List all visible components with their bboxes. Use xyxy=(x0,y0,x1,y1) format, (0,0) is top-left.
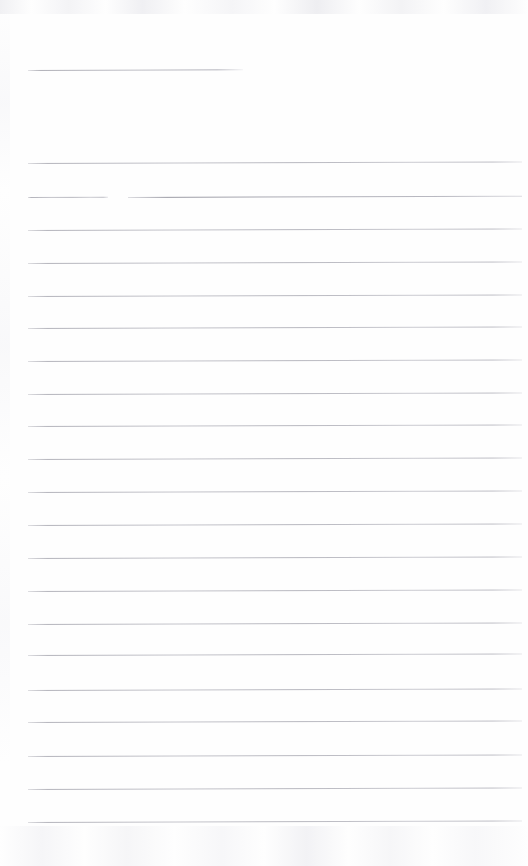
ruled-line xyxy=(28,392,522,395)
ruled-line xyxy=(28,161,522,164)
ruled-line xyxy=(28,197,108,199)
scan-grain-top xyxy=(0,0,528,14)
ruled-line xyxy=(28,688,522,691)
scan-grain-left xyxy=(0,0,10,866)
scanned-page xyxy=(0,0,528,866)
ruled-line xyxy=(28,294,522,297)
ruled-line xyxy=(28,490,522,493)
ruled-line xyxy=(28,720,522,723)
ruled-line xyxy=(28,457,522,460)
ruled-line xyxy=(28,261,522,264)
ruled-line xyxy=(28,228,522,231)
ruled-line xyxy=(28,424,522,427)
header-rule xyxy=(28,69,243,71)
ruled-line xyxy=(28,653,522,656)
ruled-line xyxy=(28,820,522,823)
ruled-line xyxy=(28,622,522,625)
ruled-line xyxy=(28,556,522,559)
ruled-line xyxy=(28,326,522,329)
ruled-line xyxy=(128,196,522,199)
ruled-line xyxy=(28,787,522,790)
ruled-line xyxy=(28,754,522,757)
ruled-line xyxy=(28,589,522,592)
scan-grain-bottom xyxy=(0,826,528,866)
ruled-line xyxy=(28,359,522,362)
ruled-line xyxy=(28,523,522,526)
